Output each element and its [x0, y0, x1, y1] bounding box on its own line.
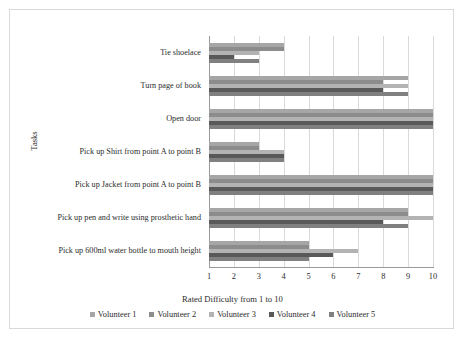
legend-item[interactable]: Volunteer 3 [209, 310, 256, 319]
legend-swatch-icon [329, 312, 334, 317]
bar[interactable] [209, 92, 408, 96]
legend-label: Volunteer 2 [157, 310, 196, 319]
legend-swatch-icon [149, 312, 154, 317]
x-axis-tick-label: 6 [323, 272, 343, 281]
y-axis-tick-label: Pick up pen and write using prosthetic h… [58, 213, 201, 222]
bar[interactable] [209, 59, 259, 63]
legend-item[interactable]: Volunteer 1 [90, 310, 137, 319]
legend-swatch-icon [209, 312, 214, 317]
bar-row [209, 158, 433, 162]
bar-row [209, 125, 433, 129]
bar-row [209, 59, 433, 63]
x-axis-tick-label: 3 [249, 272, 269, 281]
chart-legend: Volunteer 1Volunteer 2Volunteer 3Volunte… [10, 310, 455, 319]
legend-item[interactable]: Volunteer 4 [269, 310, 316, 319]
bar-group [209, 169, 433, 202]
chart-frame: Tasks Tie shoelaceTurn page of bookOpen … [9, 9, 454, 329]
legend-item[interactable]: Volunteer 2 [149, 310, 196, 319]
y-axis-tick-label: Open door [166, 114, 201, 123]
bar[interactable] [209, 125, 433, 129]
bar-row [209, 257, 433, 261]
x-axis-tick-label: 2 [224, 272, 244, 281]
legend-label: Volunteer 5 [337, 310, 376, 319]
x-axis-tick-label: 10 [423, 272, 443, 281]
x-axis-tick-label: 9 [398, 272, 418, 281]
bar-group [209, 36, 433, 69]
y-axis-title: Tasks [29, 111, 39, 171]
y-axis-tick-label: Pick up 600ml water bottle to mouth heig… [58, 246, 201, 255]
x-axis-tick-label: 8 [373, 272, 393, 281]
x-axis-tick-label: 7 [348, 272, 368, 281]
x-axis-tick-label: 4 [274, 272, 294, 281]
legend-swatch-icon [90, 312, 95, 317]
legend-item[interactable]: Volunteer 5 [329, 310, 376, 319]
legend-swatch-icon [269, 312, 274, 317]
legend-label: Volunteer 3 [217, 310, 256, 319]
bar[interactable] [209, 158, 284, 162]
legend-label: Volunteer 1 [98, 310, 137, 319]
bar-row [209, 224, 433, 228]
y-axis-tick-label: Turn page of book [141, 81, 201, 90]
legend-label: Volunteer 4 [277, 310, 316, 319]
bar-group [209, 235, 433, 268]
bar-row [209, 191, 433, 195]
plot-area [209, 36, 433, 268]
bar[interactable] [209, 224, 408, 228]
bar[interactable] [209, 257, 309, 261]
y-axis-tick-label: Pick up Jacket from point A to point B [75, 180, 201, 189]
bar-group [209, 102, 433, 135]
bar-group [209, 202, 433, 235]
x-axis-title: Rated Difficulty from 1 to 10 [10, 294, 455, 304]
bar-row [209, 92, 433, 96]
y-axis-tick-label: Tie shoelace [160, 48, 201, 57]
bar-group [209, 69, 433, 102]
gridline [433, 36, 434, 268]
x-axis-tick-label: 5 [299, 272, 319, 281]
bar[interactable] [209, 191, 433, 195]
y-axis-tick-label: Pick up Shirt from point A to point B [80, 147, 201, 156]
x-axis-tick-label: 1 [199, 272, 219, 281]
bar-group [209, 135, 433, 168]
